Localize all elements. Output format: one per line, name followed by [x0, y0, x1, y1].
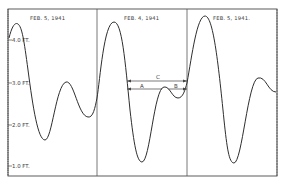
- panel-label-3: FEB. 5, 1941.: [213, 15, 250, 21]
- y-tick-4ft: 4.0 FT.: [12, 37, 30, 43]
- tide-chart: FEB. 5, 1941 FEB. 4, 1941 FEB. 5, 1941. …: [0, 0, 284, 185]
- y-tick-1ft: 1.0 FT.: [12, 163, 30, 169]
- chart-frame: [8, 9, 277, 176]
- panel-label-1: FEB. 5, 1941: [30, 15, 65, 21]
- annotation-b: B: [174, 83, 178, 89]
- tide-curve: [9, 16, 276, 163]
- y-tick-2ft: 2.0 FT.: [12, 122, 30, 128]
- annotation-c: C: [156, 74, 160, 80]
- y-tick-3ft: 3.0 FT.: [12, 80, 30, 86]
- panel-label-2: FEB. 4, 1941: [124, 15, 159, 21]
- annotation-a: A: [140, 83, 144, 89]
